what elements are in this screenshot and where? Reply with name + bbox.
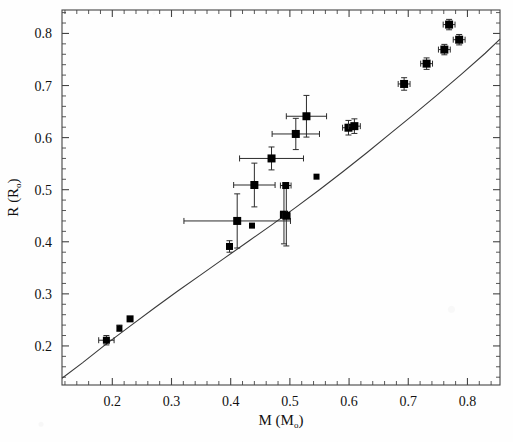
data-marker — [282, 212, 290, 220]
data-marker — [445, 21, 453, 29]
mass-radius-scatter-plot: 0.20.30.40.50.60.70.80.20.30.40.50.60.70… — [0, 0, 513, 442]
data-marker — [314, 174, 320, 180]
plot-frame — [62, 10, 500, 385]
data-point — [99, 336, 114, 345]
x-axis-title: M (Mo) — [259, 412, 304, 430]
data-marker — [103, 337, 110, 344]
data-point — [280, 182, 291, 189]
data-point — [127, 315, 134, 322]
data-point — [249, 223, 255, 229]
x-tick-label: 0.5 — [281, 394, 299, 409]
data-marker — [250, 181, 258, 189]
data-marker — [249, 223, 255, 229]
data-point — [443, 19, 455, 29]
x-tick-label: 0.8 — [459, 394, 477, 409]
data-marker — [233, 217, 241, 225]
data-point — [421, 58, 433, 69]
data-point — [240, 147, 304, 170]
data-marker — [400, 80, 408, 88]
data-point — [453, 34, 465, 44]
y-tick-label: 0.5 — [35, 183, 53, 198]
data-marker — [226, 243, 233, 250]
model-curve — [62, 39, 500, 378]
data-point — [184, 194, 291, 248]
x-tick-label: 0.7 — [400, 394, 418, 409]
data-point — [272, 118, 319, 149]
data-marker — [282, 182, 289, 189]
y-tick-label: 0.8 — [35, 26, 53, 41]
x-tick-label: 0.4 — [222, 394, 240, 409]
data-point — [116, 325, 122, 331]
data-marker — [292, 130, 300, 138]
data-marker — [302, 112, 310, 120]
data-point — [314, 174, 320, 180]
y-tick-label: 0.7 — [35, 79, 53, 94]
y-tick-label: 0.3 — [35, 287, 53, 302]
data-marker — [116, 325, 122, 331]
y-tick-label: 0.4 — [35, 235, 53, 250]
data-marker — [268, 154, 276, 162]
data-marker — [455, 36, 463, 44]
data-point — [226, 241, 233, 252]
data-marker — [127, 315, 134, 322]
y-axis-title: R (Ro) — [5, 178, 23, 216]
data-point — [398, 78, 410, 91]
x-tick-label: 0.6 — [340, 394, 358, 409]
x-tick-label: 0.3 — [163, 394, 181, 409]
x-tick-label: 0.2 — [104, 394, 122, 409]
figure-container: 0.20.30.40.50.60.70.80.20.30.40.50.60.70… — [0, 0, 513, 442]
y-tick-label: 0.6 — [35, 131, 53, 146]
data-marker — [350, 122, 358, 130]
data-marker — [440, 46, 448, 54]
y-tick-label: 0.2 — [35, 339, 53, 354]
data-point — [438, 44, 450, 54]
data-marker — [423, 60, 431, 68]
